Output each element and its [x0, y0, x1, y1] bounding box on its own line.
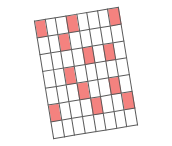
grid-cell-r4c8[interactable]: [116, 58, 129, 76]
grid-cell-r7c8[interactable]: [124, 108, 137, 126]
grid-cell-r2c8[interactable]: [111, 24, 124, 42]
grid-body: [34, 7, 137, 138]
figure-canvas: [0, 0, 172, 146]
grid-cell-r5c8[interactable]: [119, 75, 132, 93]
grid-cell-r3c8[interactable]: [113, 41, 126, 59]
grid-cell-r6c8[interactable]: [122, 91, 135, 109]
checkerboard-grid: [34, 7, 138, 139]
grid-cell-r1c8[interactable]: [108, 7, 121, 25]
grid-rotation-wrapper: [34, 7, 138, 139]
